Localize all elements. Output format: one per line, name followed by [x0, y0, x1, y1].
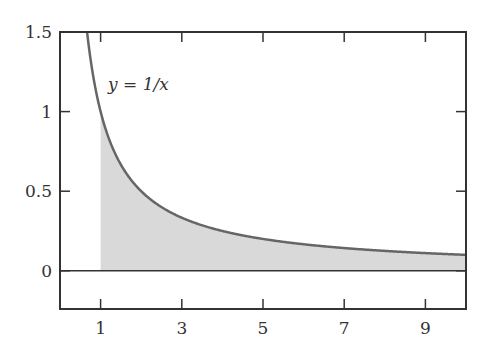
x-tick-label: 1 — [95, 318, 106, 338]
x-tick-label: 3 — [176, 318, 187, 338]
shaded-region — [101, 112, 466, 271]
shaded-area — [101, 112, 466, 271]
x-tick-label: 7 — [339, 318, 350, 338]
x-tick-label: 9 — [420, 318, 431, 338]
x-tick-label: 5 — [258, 318, 269, 338]
y-tick-label: 0.5 — [25, 181, 52, 201]
chart: 13579 00.511.5 y = 1/x — [0, 0, 481, 355]
y-tick-label: 1 — [41, 102, 52, 122]
y-tick-label: 1.5 — [25, 22, 52, 42]
y-tick-label: 0 — [41, 261, 52, 281]
curve-label: y = 1/x — [107, 74, 169, 94]
